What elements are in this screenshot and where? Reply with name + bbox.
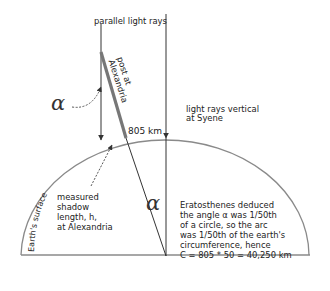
svg-text:the angle α was 1/50th: the angle α was 1/50th [180,210,277,220]
earth-surface-label: Earth's surface [27,191,49,252]
svg-text:shadow: shadow [57,202,89,212]
svg-text:was 1/50th of the earth's: was 1/50th of the earth's [180,230,285,240]
eratosthenes-diagram: α α parallel light rays post at Alexandr… [0,0,330,291]
distance-label: 805 km [128,126,162,136]
shadow-label: measured shadow length, h, at Alexandria [57,192,113,232]
shadow-pointer-arrow [91,145,112,186]
svg-text:circumference, hence: circumference, hence [180,240,271,250]
parallel-rays-label: parallel light rays [94,16,167,26]
alpha-label-top: α [51,91,65,115]
svg-text:C = 805 * 50 = 40,250 km: C = 805 * 50 = 40,250 km [180,250,292,260]
explanation-text: Eratosthenes deduced the angle α was 1/5… [180,200,292,260]
svg-text:at Alexandria: at Alexandria [57,222,113,232]
svg-text:measured: measured [57,192,99,202]
alpha-pointer-arrow [72,87,101,107]
alpha-label-center: α [146,191,160,215]
syene-label-line2: at Syene [186,113,223,123]
svg-text:of a circle, so the arc: of a circle, so the arc [180,220,268,230]
svg-text:Eratosthenes deduced: Eratosthenes deduced [180,200,274,210]
svg-text:length, h,: length, h, [57,212,97,222]
